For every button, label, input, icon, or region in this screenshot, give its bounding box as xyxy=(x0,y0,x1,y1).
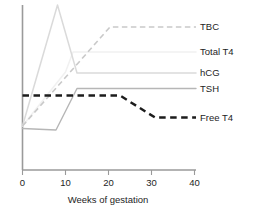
series-line-hcg xyxy=(23,5,197,126)
series-line-tbc xyxy=(23,27,197,126)
chart-container: 0 10 20 30 40 Weeks of gestation TBC Tot… xyxy=(0,0,266,213)
series-line-free-t4 xyxy=(23,96,197,118)
x-axis-title: Weeks of gestation xyxy=(68,194,149,205)
series-label-hcg: hCG xyxy=(200,67,220,78)
x-tick-label-0: 0 xyxy=(20,177,25,188)
x-tick-label-20: 20 xyxy=(103,177,114,188)
thyroid-function-gestation-line-chart: 0 10 20 30 40 Weeks of gestation TBC Tot… xyxy=(0,0,266,213)
x-tick-label-10: 10 xyxy=(60,177,71,188)
series-label-total-t4: Total T4 xyxy=(200,46,234,57)
x-tick-label-40: 40 xyxy=(189,177,200,188)
series-label-tbc: TBC xyxy=(200,21,219,32)
series-label-tsh: TSH xyxy=(200,83,219,94)
series-label-free-t4: Free T4 xyxy=(200,112,233,123)
x-tick-label-30: 30 xyxy=(146,177,157,188)
